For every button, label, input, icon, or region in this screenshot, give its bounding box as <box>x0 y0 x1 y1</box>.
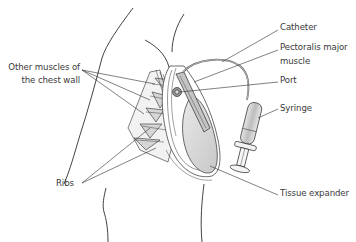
label-syringe: Syringe <box>280 104 312 113</box>
label-ribs: Ribs <box>56 179 74 188</box>
syringe-shape <box>228 100 267 174</box>
label-catheter: Catheter <box>280 23 317 32</box>
anatomy-illustration <box>0 0 356 242</box>
label-pectoralis-line1: Pectoralis major <box>280 43 348 52</box>
label-port: Port <box>280 76 297 85</box>
label-tissue-expander: Tissue expander <box>280 189 349 198</box>
label-other-muscles-line1: Other muscles of <box>2 63 80 72</box>
label-pectoralis-line2: muscle <box>280 57 310 66</box>
diagram-stage: Other muscles of the chest wall Ribs Cat… <box>0 0 356 242</box>
label-other-muscles-line2: the chest wall <box>2 76 80 85</box>
